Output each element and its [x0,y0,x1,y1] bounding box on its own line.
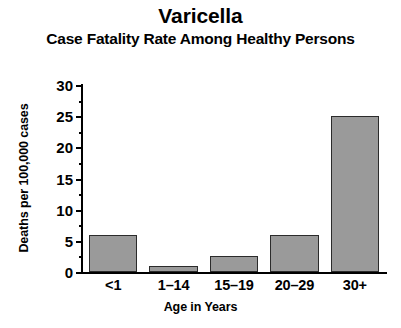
bar [210,256,258,272]
bar-series [83,85,385,272]
page-title: Varicella [0,4,401,28]
y-tick-label: 30 [56,78,73,93]
bar [149,266,197,272]
y-tick-label: 15 [56,171,73,186]
x-axis-title: Age in Years [0,300,401,314]
y-tick-mark [76,241,83,243]
bar [331,116,379,272]
x-tick-label: 20–29 [275,278,314,293]
y-tick-mark [76,179,83,181]
chart-subtitle: Case Fatality Rate Among Healthy Persons [0,29,401,48]
chart-figure: Varicella Case Fatality Rate Among Healt… [0,0,401,328]
y-tick-label: 20 [56,140,73,155]
y-tick-label: 0 [65,265,73,280]
y-tick-mark [76,147,83,149]
bar [89,235,137,272]
y-tick-mark [76,210,83,212]
x-tick-label: 30+ [343,278,367,293]
x-tick-label: <1 [105,278,121,293]
y-axis-title: Deaths per 100,000 cases [17,103,31,252]
y-tick-mark [76,272,83,274]
y-tick-mark [76,116,83,118]
x-tick-label: 1–14 [158,278,189,293]
x-tick-label: 15–19 [214,278,253,293]
y-tick-label: 25 [56,109,73,124]
y-tick-label: 5 [65,233,73,248]
x-axis-line [81,272,387,274]
y-tick-label: 10 [56,202,73,217]
plot-area: 051015202530 [83,85,385,272]
y-tick-mark [76,85,83,87]
bar [270,235,318,272]
chart-title-block: Varicella Case Fatality Rate Among Healt… [0,4,401,48]
